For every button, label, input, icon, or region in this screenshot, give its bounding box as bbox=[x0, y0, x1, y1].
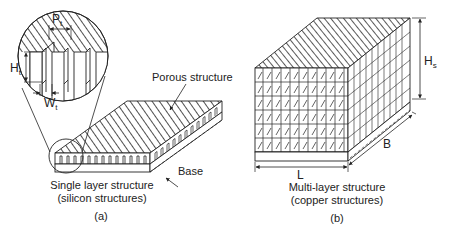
figure: Pt Ht Wt Porous structure Base Single la… bbox=[0, 0, 449, 234]
stack-base-front bbox=[255, 152, 348, 161]
panel-b-label: (b) bbox=[330, 212, 343, 224]
porous-structure-label: Porous structure bbox=[152, 71, 233, 83]
breadth-label: B bbox=[383, 137, 391, 151]
panel-a-caption-line2: (silicon structures) bbox=[57, 192, 146, 204]
panel-a-caption-line1: Single layer structure bbox=[50, 179, 153, 191]
magnified-inset bbox=[15, 10, 115, 102]
panel-b-caption-line2: (copper structures) bbox=[291, 194, 383, 206]
panel-a-label: (a) bbox=[94, 210, 107, 222]
base-label: Base bbox=[178, 165, 203, 177]
height-label-stack: Hs bbox=[424, 54, 437, 70]
base-front bbox=[55, 164, 150, 172]
length-label: L bbox=[297, 168, 304, 182]
panel-b-caption-line1: Multi-layer structure bbox=[289, 181, 386, 193]
multi-layer-structure bbox=[255, 18, 426, 172]
